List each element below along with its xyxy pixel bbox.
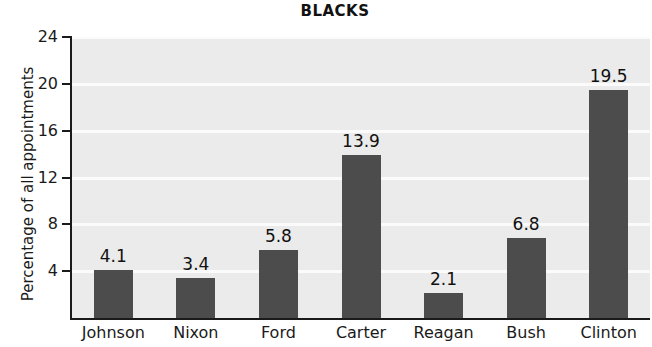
bar [589, 90, 628, 318]
bar-value-label: 6.8 [486, 216, 566, 233]
x-axis-label-clinton: Clinton [559, 323, 652, 342]
gridline-20 [72, 83, 650, 86]
bar-value-label: 5.8 [238, 228, 318, 245]
plot-area [72, 37, 650, 318]
y-tick-mark [62, 130, 71, 132]
bar [424, 293, 463, 318]
bar-value-label: 19.5 [569, 68, 649, 85]
bar-value-label: 3.4 [156, 256, 236, 273]
y-tick-label: 20 [38, 76, 58, 92]
bar [507, 238, 546, 318]
y-tick-label: 16 [38, 123, 58, 139]
y-tick-mark [62, 223, 71, 225]
y-tick-mark [62, 36, 71, 38]
y-tick-mark [62, 270, 71, 272]
bar [94, 270, 133, 318]
y-tick-mark [62, 83, 71, 85]
y-tick-label: 4 [48, 263, 58, 279]
bar-value-label: 13.9 [321, 133, 401, 150]
bar-value-label: 4.1 [73, 248, 153, 265]
bar [342, 155, 381, 318]
y-axis-title: Percentage of all appointments [19, 44, 37, 324]
x-axis-line [70, 318, 650, 320]
y-tick-label: 12 [38, 170, 58, 186]
bar-value-label: 2.1 [404, 271, 484, 288]
y-tick-label: 24 [38, 29, 58, 45]
gridline-24 [72, 37, 650, 39]
y-tick-label: 8 [48, 216, 58, 232]
bar-chart: BLACKS Percentage of all appointments 48… [0, 0, 652, 347]
y-tick-mark [62, 177, 71, 179]
bar [176, 278, 215, 318]
bar [259, 250, 298, 318]
chart-title: BLACKS [0, 2, 652, 20]
